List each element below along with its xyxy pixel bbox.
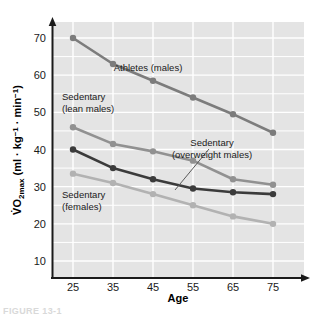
vo2max-vs-age-line-chart: 10203040506070 253545556575 Athletes (ma… xyxy=(0,0,316,319)
annotation-line: Athletes (males) xyxy=(114,62,183,73)
data-point xyxy=(190,94,196,100)
data-point xyxy=(70,124,76,130)
data-point xyxy=(70,170,76,176)
data-point xyxy=(110,180,116,186)
figure-root: 10203040506070 253545556575 Athletes (ma… xyxy=(0,0,316,319)
x-tick-label-75: 75 xyxy=(267,281,279,293)
annotation-line: Sedentary xyxy=(62,91,106,102)
figure-caption-partial: FIGURE 13-1 xyxy=(3,306,123,317)
y-tick-label-40: 40 xyxy=(34,144,46,156)
x-tick-label-55: 55 xyxy=(187,281,199,293)
x-tick-label-35: 35 xyxy=(107,281,119,293)
data-point xyxy=(150,148,156,154)
data-point xyxy=(270,221,276,227)
annotation-line: (overweight males) xyxy=(172,149,252,160)
y-axis-title: V̇O2max (ml · kg−1 · min−1) xyxy=(11,85,27,215)
data-point xyxy=(110,141,116,147)
y-tick-label-60: 60 xyxy=(34,69,46,81)
annotation-line: Sedentary xyxy=(190,137,234,148)
y-axis-arrowhead xyxy=(49,17,57,26)
annotation-line: (lean males) xyxy=(62,103,114,114)
data-point xyxy=(230,111,236,117)
y-tick-label-20: 20 xyxy=(34,218,46,230)
x-tick-label-45: 45 xyxy=(147,281,159,293)
data-point xyxy=(230,189,236,195)
y-axis-title-dot: V̇O xyxy=(11,199,23,215)
data-point xyxy=(70,35,76,41)
x-axis-title: Age xyxy=(168,292,189,304)
data-point xyxy=(70,146,76,152)
y-tick-label-70: 70 xyxy=(34,32,46,44)
annotation-line: Sedentary xyxy=(62,189,106,200)
y-tick-label-10: 10 xyxy=(34,255,46,267)
data-point xyxy=(270,130,276,136)
data-point xyxy=(270,182,276,188)
y-tick-label-30: 30 xyxy=(34,181,46,193)
data-point xyxy=(150,176,156,182)
data-point xyxy=(230,176,236,182)
annotation-line: (females) xyxy=(62,201,102,212)
data-point xyxy=(190,185,196,191)
x-tick-label-65: 65 xyxy=(227,281,239,293)
x-axis-arrowhead xyxy=(301,274,310,282)
data-point xyxy=(230,213,236,219)
annotation-sedentary-females: Sedentary(females) xyxy=(62,189,106,212)
annotation-athletes-males: Athletes (males) xyxy=(114,62,183,73)
data-point xyxy=(150,78,156,84)
data-point xyxy=(190,202,196,208)
data-point xyxy=(270,191,276,197)
y-tick-label-50: 50 xyxy=(34,106,46,118)
y-axis-title-group: V̇O2max (ml · kg−1 · min−1) xyxy=(11,85,27,215)
data-point xyxy=(150,191,156,197)
x-tick-label-25: 25 xyxy=(67,281,79,293)
y-axis-tick-labels: 10203040506070 xyxy=(34,32,46,267)
data-point xyxy=(110,165,116,171)
